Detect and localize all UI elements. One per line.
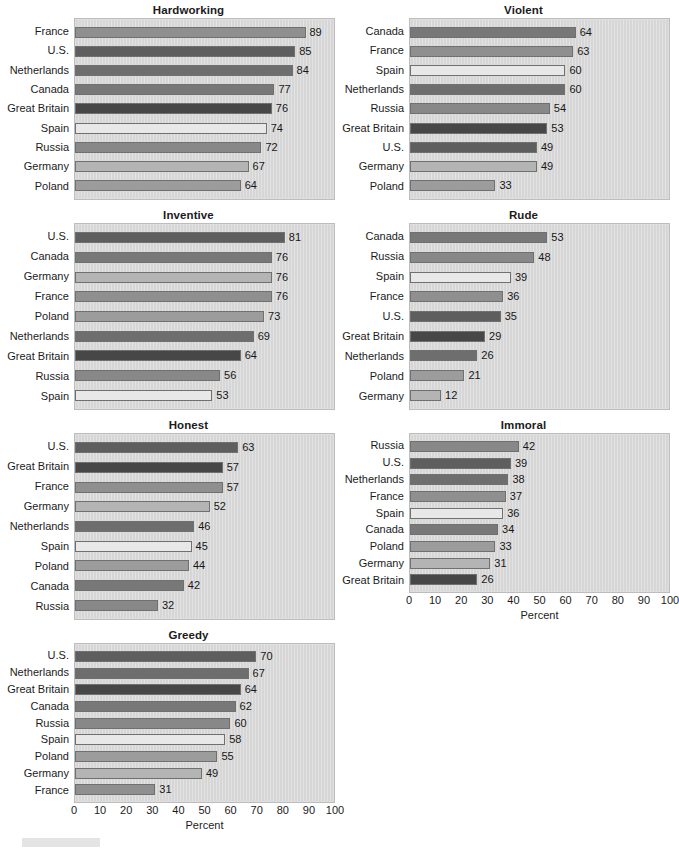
bar-rows: 898584777674726764 [75,23,334,195]
bar [410,524,498,535]
bar [410,123,547,134]
bar-value-label: 31 [159,784,171,795]
bar-row: 63 [410,42,669,61]
category-label: Germany [0,267,69,287]
bar [75,84,274,95]
axis-tick-label: 50 [198,803,210,818]
category-label: Russia [0,596,69,616]
bar-row: 49 [410,138,669,157]
bar-rows: 706764626058554931 [75,648,334,798]
bar-row: 36 [410,287,669,307]
bar-value-label: 89 [310,27,322,38]
bar-value-label: 53 [551,123,563,134]
bar-value-label: 67 [253,161,265,172]
chart-panel-rude: RudeCanadaRussiaSpainFranceU.S.Great Bri… [335,207,670,410]
bar-row: 70 [75,648,334,665]
bar-row: 60 [410,61,669,80]
bar-row: 45 [75,536,334,556]
bar-value-label: 29 [489,331,501,342]
bar-value-label: 35 [505,311,517,322]
bar [75,521,194,532]
category-label: Poland [0,177,69,196]
bar-row: 32 [75,595,334,615]
category-label: Germany [0,157,69,176]
bar-value-label: 21 [468,370,480,381]
category-label: Netherlands [0,326,69,346]
bar-value-label: 62 [240,701,252,712]
category-label: U.S. [0,647,69,664]
bar-value-label: 34 [502,524,514,535]
category-label: France [0,782,69,799]
bar-value-label: 56 [224,370,236,381]
chart-panel-violent: ViolentCanadaFranceSpainNetherlandsRussi… [335,2,670,200]
bar [75,232,285,243]
category-label: U.S. [0,437,69,457]
category-label: Netherlands [0,664,69,681]
bar-value-label: 72 [265,142,277,153]
category-label: Great Britain [0,457,69,477]
bar-value-label: 76 [276,272,288,283]
bar [75,390,212,401]
chart-panel-immoral: ImmoralRussiaU.S.NetherlandsFranceSpainC… [335,417,670,622]
bar-row: 76 [75,267,334,287]
category-label: Poland [0,556,69,576]
bar [75,751,217,762]
category-label: Poland [335,366,404,386]
bar-row: 48 [410,248,669,268]
category-label: Spain [335,61,404,80]
bar-value-label: 73 [268,311,280,322]
axis-tick-label: 40 [172,803,184,818]
bar-value-label: 52 [214,501,226,512]
axis-title: Percent [74,818,335,832]
bar [75,701,236,712]
bar [410,84,565,95]
bar-row: 67 [75,665,334,682]
category-label: U.S. [335,307,404,327]
axis-tick-label: 90 [303,803,315,818]
bar-value-label: 39 [515,272,527,283]
bar-value-label: 64 [245,350,257,361]
bar-value-label: 31 [494,558,506,569]
bar [410,574,477,585]
category-label: Spain [0,386,69,406]
category-axis: RussiaU.S.NetherlandsFranceSpainCanadaPo… [335,433,409,593]
category-label: Spain [0,536,69,556]
bar-row: 77 [75,80,334,99]
bar-value-label: 76 [276,103,288,114]
bar [75,123,267,134]
bar [75,103,272,114]
category-label: Spain [0,119,69,138]
bar-value-label: 74 [271,123,283,134]
bar-value-label: 49 [206,768,218,779]
panel-body: FranceU.S.NetherlandsCanadaGreat Britain… [0,18,335,200]
axis-tick-label: 30 [146,803,158,818]
bar-rows: 534839363529262112 [410,228,669,405]
bar [410,46,573,57]
bar [75,161,249,172]
bar [410,161,537,172]
category-label: France [0,287,69,307]
category-axis: U.S.NetherlandsGreat BritainCanadaRussia… [0,643,74,803]
category-label: Netherlands [0,517,69,537]
bar-value-label: 45 [196,541,208,552]
bar-value-label: 60 [569,65,581,76]
bar-rows: 423938373634333126 [410,438,669,588]
category-axis: FranceU.S.NetherlandsCanadaGreat Britain… [0,18,74,200]
category-label: France [335,41,404,60]
bar [75,684,241,695]
bar-value-label: 33 [499,180,511,191]
bar-value-label: 37 [510,491,522,502]
bar [410,311,501,322]
category-axis: U.S.CanadaGermanyFrancePolandNetherlands… [0,223,74,410]
bar-value-label: 60 [569,84,581,95]
bar-row: 64 [410,23,669,42]
bar-value-label: 36 [507,508,519,519]
bar-row: 76 [75,99,334,118]
bar [75,370,220,381]
category-label: France [335,287,404,307]
category-label: Russia [0,138,69,157]
bar-row: 53 [75,385,334,405]
panel-body: RussiaU.S.NetherlandsFranceSpainCanadaPo… [335,433,670,593]
bar-row: 49 [75,765,334,782]
axis-tick-label: 60 [224,803,236,818]
